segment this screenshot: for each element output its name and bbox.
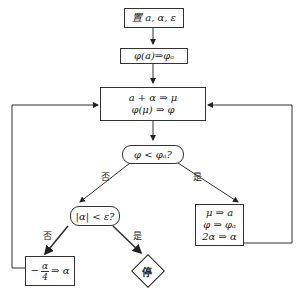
decision2: |α| < ε?: [70, 206, 120, 226]
accept-box: μ ⇒ a φ ⇒ φₐ 2α ⇒ α: [195, 204, 244, 246]
start-text: 置 a, α, ε: [132, 12, 176, 24]
fraction: α 4: [41, 261, 49, 282]
init-text: φ(a)⇒φₐ: [134, 50, 174, 62]
decision2-text: |α| < ε?: [76, 211, 115, 222]
decision1: φ < φₐ?: [122, 145, 184, 164]
accept-line-2: φ ⇒ φₐ: [203, 219, 236, 231]
update-box: a + α ⇒ μ φ(μ) ⇒ φ: [100, 87, 206, 121]
fraction-num: α: [41, 261, 49, 272]
decision2-yes-label: 是: [133, 229, 142, 242]
minus-sign: −: [31, 265, 39, 277]
update-line-2: φ(μ) ⇒ φ: [131, 104, 174, 116]
init-box: φ(a)⇒φₐ: [120, 48, 188, 64]
decision1-yes-label: 是: [193, 170, 202, 183]
decision1-text: φ < φₐ?: [134, 149, 172, 160]
update-line-1: a + α ⇒ μ: [129, 92, 178, 104]
shrink-assign: ⇒ α: [51, 265, 69, 277]
start-box: 置 a, α, ε: [124, 8, 184, 28]
shrink-box: − α 4 ⇒ α: [25, 256, 75, 286]
decision2-no-label: 否: [43, 229, 52, 242]
stop-text: 停: [142, 264, 152, 279]
accept-line-3: 2α ⇒ α: [202, 231, 237, 243]
accept-line-1: μ ⇒ a: [206, 207, 233, 219]
decision1-no-label: 否: [101, 170, 110, 183]
fraction-den: 4: [42, 272, 48, 282]
